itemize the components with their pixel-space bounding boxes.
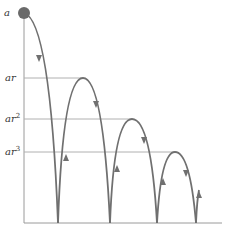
label-ar: ar [5, 72, 17, 83]
trajectory-bounce-1 [58, 78, 110, 223]
arrow-up-icon [63, 154, 69, 161]
ball-icon [18, 7, 30, 19]
label-a: a [4, 7, 10, 18]
bouncing-ball-diagram: a ar ar2 ar3 [0, 0, 246, 228]
label-ar3: ar3 [5, 145, 20, 157]
label-ar2: ar2 [5, 112, 20, 124]
arrow-down-icon [36, 55, 42, 62]
trajectory-bounce-3 [157, 152, 196, 223]
trajectory-drop [24, 13, 58, 223]
arrow-up-icon [196, 191, 202, 198]
